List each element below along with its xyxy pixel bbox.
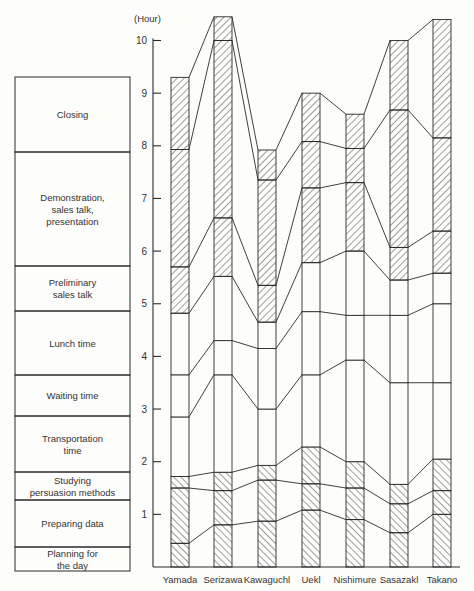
legend-box: Demonstration,sales talk,presentation	[15, 152, 130, 266]
segment	[214, 491, 232, 525]
segment	[302, 447, 320, 484]
segment	[171, 267, 189, 313]
legend-box: Waiting time	[15, 375, 130, 416]
segment	[171, 375, 189, 417]
segment	[346, 315, 364, 360]
bar-nishimure	[346, 114, 364, 567]
segment	[171, 476, 189, 488]
y-tick-label: 9	[141, 88, 147, 99]
segment	[433, 459, 451, 491]
segment	[258, 285, 276, 322]
segment	[346, 114, 364, 148]
segment	[302, 93, 320, 141]
segment	[433, 491, 451, 515]
segment	[258, 322, 276, 348]
bar-kawaguchl	[258, 150, 276, 567]
segment	[258, 180, 276, 285]
segment	[258, 480, 276, 521]
y-tick-label: 3	[141, 404, 147, 415]
segment	[433, 514, 451, 567]
segment	[346, 488, 364, 520]
segment	[390, 315, 408, 382]
x-tick-label: Yamada	[163, 574, 198, 585]
legend-label: Preparing data	[41, 518, 104, 529]
segment	[214, 472, 232, 490]
y-tick-label: 1	[141, 509, 147, 520]
segment	[433, 383, 451, 459]
segment	[390, 533, 408, 567]
segment	[346, 183, 364, 251]
legend-label: Lunch time	[49, 338, 95, 349]
segment	[433, 19, 451, 137]
segment	[302, 375, 320, 447]
segment	[171, 543, 189, 567]
segment	[214, 525, 232, 567]
segment	[214, 218, 232, 276]
segment	[433, 231, 451, 273]
segment	[433, 304, 451, 383]
segment	[346, 360, 364, 462]
x-tick-label: Serizawa	[203, 574, 243, 585]
y-tick-label: 2	[141, 456, 147, 467]
stacked-time-chart: ClosingDemonstration,sales talk,presenta…	[0, 0, 474, 591]
legend-label: Preliminary	[49, 277, 97, 288]
legend-label: Demonstration,	[40, 192, 104, 203]
y-tick-label: 4	[141, 351, 147, 362]
x-tick-label: Sasazakl	[380, 574, 419, 585]
segment	[390, 247, 408, 280]
segment	[433, 273, 451, 304]
segment	[346, 520, 364, 567]
legend-label: the day	[57, 560, 88, 571]
segment	[258, 409, 276, 465]
bar-yamada	[171, 77, 189, 567]
segment	[171, 77, 189, 149]
segment	[258, 150, 276, 180]
segment	[258, 465, 276, 480]
segment	[171, 417, 189, 476]
segment	[390, 484, 408, 503]
segment	[433, 138, 451, 231]
legend-box: Closing	[15, 77, 130, 152]
segment	[346, 251, 364, 315]
legend-label: sales talk	[53, 289, 93, 300]
legend-label: Closing	[57, 109, 89, 120]
legend-label: Transportation	[42, 433, 103, 444]
segment	[346, 148, 364, 182]
legend-box: Lunch time	[15, 311, 130, 375]
segment	[346, 462, 364, 488]
segment	[214, 341, 232, 375]
y-axis-unit-label: (Hour)	[134, 13, 161, 24]
legend-label: sales talk,	[51, 204, 93, 215]
segment	[214, 276, 232, 340]
legend-box: Studyingpersuasion methods	[15, 472, 130, 500]
legend-box: Planning forthe day	[15, 547, 130, 571]
segment	[390, 504, 408, 533]
legend-box: Preliminarysales talk	[15, 266, 130, 311]
segment	[302, 263, 320, 312]
legend-box: Transportationtime	[15, 416, 130, 472]
segment	[258, 521, 276, 567]
legend-label: Studying	[54, 475, 91, 486]
segment	[171, 313, 189, 375]
segment	[390, 41, 408, 110]
bar-takano	[433, 19, 451, 567]
y-tick-label: 10	[136, 35, 148, 46]
segment	[390, 383, 408, 485]
legend-boxes: ClosingDemonstration,sales talk,presenta…	[15, 77, 130, 571]
y-tick-label: 8	[141, 140, 147, 151]
x-tick-label: Kawaguchl	[244, 574, 290, 585]
legend-box: Preparing data	[15, 500, 130, 547]
segment	[390, 110, 408, 247]
x-tick-label: Takano	[427, 574, 458, 585]
segment	[390, 280, 408, 315]
segment	[302, 484, 320, 510]
bar-sasazakl	[390, 41, 408, 568]
legend-label: Planning for	[47, 548, 98, 559]
y-tick-label: 5	[141, 298, 147, 309]
segment	[302, 312, 320, 375]
segment	[171, 149, 189, 266]
x-axis-labels: YamadaSerizawaKawaguchlUeklNishimureSasa…	[163, 574, 458, 585]
segment	[171, 488, 189, 543]
segment	[214, 17, 232, 41]
legend-label: presentation	[46, 216, 98, 227]
